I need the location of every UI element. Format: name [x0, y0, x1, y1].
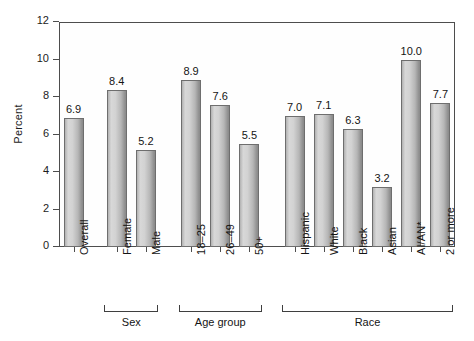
x-tick-mark	[117, 247, 118, 252]
category-label: 50+	[253, 236, 265, 255]
category-label: White	[328, 226, 340, 255]
y-tick-mark	[53, 96, 59, 97]
x-tick-mark	[74, 247, 75, 252]
category-label: 18–25	[195, 224, 207, 255]
bar	[239, 144, 259, 247]
y-tick-label: 2	[43, 202, 49, 214]
y-tick-mark	[53, 21, 59, 22]
x-tick-mark	[382, 247, 383, 252]
x-tick-mark	[411, 247, 412, 252]
bar-value-label: 10.0	[395, 45, 427, 57]
x-tick-mark	[146, 247, 147, 252]
category-label: Black	[357, 228, 369, 255]
x-tick-mark	[295, 247, 296, 252]
category-label: Asian	[386, 227, 398, 255]
y-tick-mark	[53, 209, 59, 210]
group-bracket	[104, 305, 158, 312]
bar-value-label: 5.5	[233, 129, 265, 141]
bar-value-label: 7.7	[424, 88, 456, 100]
y-tick-label: 8	[43, 89, 49, 101]
group-bracket	[179, 305, 263, 312]
x-tick-mark	[353, 247, 354, 252]
group-label: Race	[282, 316, 453, 328]
bar-chart: Percent 024681012 6.98.45.28.97.65.57.07…	[0, 0, 474, 341]
bar-value-label: 5.2	[130, 135, 162, 147]
category-label: 2 or more	[444, 207, 456, 255]
x-tick-mark	[249, 247, 250, 252]
x-tick-mark	[191, 247, 192, 252]
y-tick-mark	[53, 59, 59, 60]
bar-value-label: 3.2	[366, 172, 398, 184]
bar	[401, 60, 421, 248]
y-tick-label: 0	[43, 239, 49, 251]
bar-value-label: 8.9	[175, 65, 207, 77]
y-tick-label: 6	[43, 127, 49, 139]
category-label: Hispanic	[299, 212, 311, 255]
y-tick-label: 4	[43, 164, 49, 176]
category-label: Female	[121, 218, 133, 255]
bar-value-label: 7.1	[308, 99, 340, 111]
category-label: 26–49	[224, 224, 236, 255]
bar-value-label: 6.9	[58, 103, 90, 115]
y-tick-mark	[53, 246, 59, 247]
category-label: Male	[150, 231, 162, 255]
y-tick-mark	[53, 134, 59, 135]
x-tick-mark	[440, 247, 441, 252]
bar-value-label: 7.0	[279, 101, 311, 113]
x-tick-mark	[324, 247, 325, 252]
bar	[181, 80, 201, 247]
y-tick-label: 12	[37, 14, 49, 26]
category-label: Overall	[78, 219, 90, 255]
group-label: Sex	[104, 316, 158, 328]
bar-value-label: 6.3	[337, 114, 369, 126]
category-label: AI/AN*	[415, 221, 427, 255]
y-tick-label: 10	[37, 52, 49, 64]
bar-value-label: 8.4	[101, 75, 133, 87]
y-tick-mark	[53, 171, 59, 172]
x-tick-mark	[220, 247, 221, 252]
bar-value-label: 7.6	[204, 90, 236, 102]
y-axis-title: Percent	[12, 84, 24, 164]
group-label: Age group	[179, 316, 263, 328]
group-bracket	[282, 305, 453, 312]
